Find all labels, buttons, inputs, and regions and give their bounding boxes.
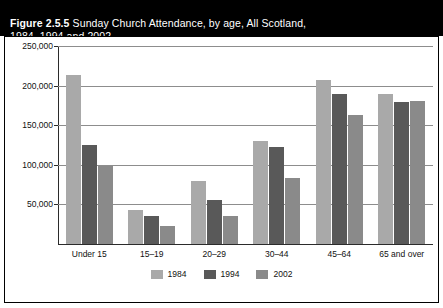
y-tick-label: 50,000 — [27, 199, 53, 209]
bar — [223, 216, 238, 244]
bar — [253, 141, 268, 244]
y-tick-label: 150,000 — [22, 120, 53, 130]
legend-swatch — [151, 270, 163, 279]
x-tick-label: 45–64 — [327, 249, 351, 259]
chart-panel: 50,000100,000150,000200,000250,000 Under… — [4, 36, 439, 303]
figure-title-band: Figure 2.5.5 Sunday Church Attendance, b… — [0, 0, 443, 36]
bar — [82, 145, 97, 244]
y-tick-label: 250,000 — [22, 41, 53, 51]
bar — [394, 102, 409, 244]
bar — [66, 75, 81, 244]
x-tick-label: Under 15 — [72, 249, 107, 259]
legend-item: 1984 — [151, 269, 187, 279]
bar-group — [253, 46, 300, 244]
bar — [98, 166, 113, 244]
x-tick-label: 20–29 — [202, 249, 226, 259]
bar — [378, 94, 393, 244]
legend-label: 1984 — [168, 269, 187, 279]
legend-label: 1994 — [221, 269, 240, 279]
bar-group — [316, 46, 363, 244]
bar-group — [128, 46, 175, 244]
y-tick-label: 200,000 — [22, 81, 53, 91]
bar-group — [191, 46, 238, 244]
chart-legend: 198419942002 — [5, 269, 438, 279]
x-tick-label: 30–44 — [265, 249, 289, 259]
y-tick-label: 100,000 — [22, 160, 53, 170]
bar-group — [378, 46, 425, 244]
x-tick-label: 15–19 — [140, 249, 164, 259]
bar — [332, 94, 347, 244]
bar — [316, 80, 331, 244]
bar — [128, 210, 143, 244]
bar — [285, 178, 300, 244]
bar — [348, 115, 363, 244]
legend-label: 2002 — [273, 269, 292, 279]
plot-area: 50,000100,000150,000200,000250,000 Under… — [58, 46, 433, 245]
bar — [144, 216, 159, 244]
bar-group — [66, 46, 113, 244]
figure-card: Figure 2.5.5 Sunday Church Attendance, b… — [0, 0, 443, 308]
bar-series-container — [58, 46, 433, 245]
bar — [269, 147, 284, 244]
legend-swatch — [204, 270, 216, 279]
bar — [410, 101, 425, 244]
legend-item: 1994 — [204, 269, 240, 279]
figure-number: Figure 2.5.5 — [10, 17, 70, 29]
x-tick-label: 65 and over — [379, 249, 424, 259]
bar — [160, 226, 175, 244]
bar — [207, 200, 222, 244]
legend-item: 2002 — [256, 269, 292, 279]
bar — [191, 181, 206, 244]
legend-swatch — [256, 270, 268, 279]
